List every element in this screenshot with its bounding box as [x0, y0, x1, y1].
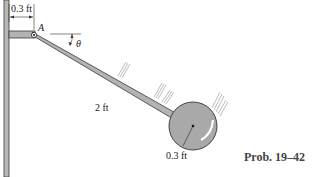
angle-label: θ: [76, 38, 81, 49]
offset-dimension-label: 0.3 ft: [11, 3, 32, 14]
pin-a-center: [33, 34, 35, 36]
pin-a-label: A: [37, 22, 45, 33]
pendulum-diagram: 0.3 ft A θ 2 ft 0.3 ft Prob. 19–42: [0, 0, 328, 177]
rod-length-label: 2 ft: [95, 102, 109, 113]
rod: [32, 32, 189, 126]
disk-radius-label: 0.3 ft: [166, 150, 187, 161]
problem-caption: Prob. 19–42: [244, 150, 305, 164]
motion-lines: [118, 62, 228, 116]
wall: [4, 0, 9, 177]
